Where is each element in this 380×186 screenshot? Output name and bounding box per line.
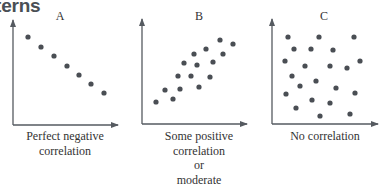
panel-c-dots [282, 34, 362, 118]
data-point [291, 46, 296, 51]
panel-b-dots [153, 37, 235, 104]
data-point [181, 60, 186, 65]
panel-c-title: C [320, 9, 328, 23]
data-point [330, 47, 335, 52]
data-point [25, 34, 30, 39]
data-point [188, 73, 193, 78]
data-point [76, 72, 81, 77]
panel-a-title: A [56, 9, 65, 23]
data-point [333, 85, 338, 90]
panel-b-title: B [195, 9, 203, 23]
data-point [203, 46, 208, 51]
data-point [283, 91, 288, 96]
data-point [308, 46, 313, 51]
data-point [309, 97, 314, 102]
data-point [153, 99, 158, 104]
data-point [327, 63, 332, 68]
data-point [220, 51, 225, 56]
data-point [313, 78, 318, 83]
caption-line: Perfect negative [5, 129, 125, 144]
panel-c-caption: No correlation [265, 129, 380, 144]
data-point [51, 53, 56, 58]
data-point [352, 90, 357, 95]
data-point [207, 74, 212, 79]
data-point [351, 34, 356, 39]
data-point [293, 105, 298, 110]
panel-a-caption: Perfect negative correlation [5, 129, 125, 158]
data-point [297, 83, 302, 88]
data-point [101, 90, 106, 95]
panel-a-dots [25, 34, 106, 95]
caption-line: correlation [139, 144, 259, 159]
data-point [175, 73, 180, 78]
data-point [191, 51, 196, 56]
data-point [88, 81, 93, 86]
data-point [194, 62, 199, 67]
data-point [344, 65, 349, 70]
data-point [210, 59, 215, 64]
data-point [289, 73, 294, 78]
data-point [327, 100, 332, 105]
data-point [64, 63, 69, 68]
panel-b-caption: Some positive correlation or moderate [139, 129, 259, 185]
data-point [196, 84, 201, 89]
data-point [38, 44, 43, 49]
data-point [230, 41, 235, 46]
data-point [177, 86, 182, 91]
data-point [162, 87, 167, 92]
caption-line: correlation [5, 144, 125, 159]
data-point [285, 34, 290, 39]
caption-line: Some positive [139, 129, 259, 144]
caption-line: No correlation [265, 129, 380, 144]
data-point [302, 63, 307, 68]
panel-b-axes [142, 19, 247, 124]
data-point [317, 113, 322, 118]
data-point [217, 37, 222, 42]
data-point [282, 58, 287, 63]
data-point [170, 96, 175, 101]
data-point [357, 58, 362, 63]
data-point [316, 34, 321, 39]
caption-line: moderate [139, 173, 259, 186]
data-point [347, 111, 352, 116]
caption-line: or [139, 158, 259, 173]
